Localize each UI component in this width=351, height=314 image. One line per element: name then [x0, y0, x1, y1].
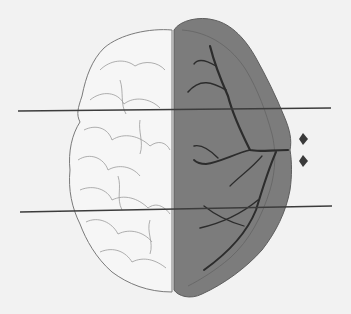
marker-upper [299, 133, 308, 145]
left-hemisphere [69, 30, 172, 292]
marker-lower [299, 155, 308, 167]
diagram-canvas [0, 0, 351, 314]
brain-diagram [0, 0, 351, 314]
